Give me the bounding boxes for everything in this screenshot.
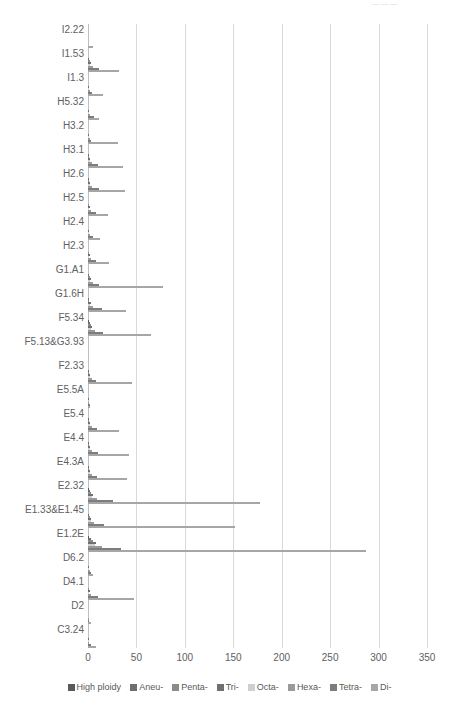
y-category-label: H3.1 — [0, 144, 84, 155]
y-category-label: H5.32 — [0, 96, 84, 107]
bar-group — [88, 360, 427, 384]
bar-group — [88, 504, 427, 528]
legend-label: Hexa- — [297, 682, 321, 692]
bar-group — [88, 384, 427, 408]
x-tick-label: 150 — [225, 652, 242, 664]
y-category-label: I1.3 — [0, 72, 84, 83]
legend-swatch-icon — [248, 684, 255, 691]
y-category-label: D2 — [0, 600, 84, 611]
bar-group — [88, 480, 427, 504]
legend-item[interactable]: Tri- — [217, 682, 239, 692]
y-category-label: E5.5A — [0, 384, 84, 395]
legend-item[interactable]: Octa- — [248, 682, 279, 692]
bar-group — [88, 600, 427, 624]
y-category-label: E1.2E — [0, 528, 84, 539]
legend-label: Tetra- — [339, 682, 362, 692]
legend-swatch-icon — [130, 684, 137, 691]
legend-swatch-icon — [371, 684, 378, 691]
legend-swatch-icon — [217, 684, 224, 691]
bar-group — [88, 264, 427, 288]
x-axis-tick-labels: 050100150200250300350 — [0, 652, 459, 666]
y-category-label: I2.22 — [0, 24, 84, 35]
y-category-label: F5.13&G3.93 — [0, 336, 84, 347]
x-tick-label: 50 — [131, 652, 142, 664]
y-category-label: H2.4 — [0, 216, 84, 227]
bar-group — [88, 336, 427, 360]
bar-group — [88, 288, 427, 312]
bar-group — [88, 576, 427, 600]
bar-group — [88, 168, 427, 192]
clipped-top-artifact: — — — — [372, 0, 398, 5]
legend-swatch-icon — [172, 684, 179, 691]
legend-swatch-icon — [68, 684, 75, 691]
legend-label: Di- — [380, 682, 392, 692]
chart-legend: High ploidyAneu-Penta-Tri-Octa-Hexa-Tetr… — [0, 682, 459, 692]
gridline-350 — [427, 24, 428, 648]
legend-item[interactable]: Hexa- — [288, 682, 321, 692]
horizontal-bar-chart: — — — I2.22I1.53I1.3H5.32H3.2H3.1H2.6H2.… — [0, 0, 459, 710]
bar-group — [88, 456, 427, 480]
y-category-label: G1.A1 — [0, 264, 84, 275]
y-category-label: E4.3A — [0, 456, 84, 467]
bar-group — [88, 216, 427, 240]
x-tick-label: 250 — [322, 652, 339, 664]
y-category-label: E2.32 — [0, 480, 84, 491]
legend-item[interactable]: Aneu- — [130, 682, 163, 692]
legend-label: Octa- — [257, 682, 279, 692]
y-category-label: E4.4 — [0, 432, 84, 443]
x-tick-label: 300 — [370, 652, 387, 664]
y-axis-category-labels: I2.22I1.53I1.3H5.32H3.2H3.1H2.6H2.5H2.4H… — [0, 24, 84, 648]
bar — [88, 646, 96, 648]
bar-group — [88, 48, 427, 72]
y-category-label: F2.33 — [0, 360, 84, 371]
y-category-label: F5.34 — [0, 312, 84, 323]
bar-group — [88, 24, 427, 48]
legend-swatch-icon — [288, 684, 295, 691]
legend-swatch-icon — [330, 684, 337, 691]
bar-group — [88, 192, 427, 216]
bar-group — [88, 312, 427, 336]
y-category-label: H2.5 — [0, 192, 84, 203]
legend-label: High ploidy — [77, 682, 122, 692]
bar-group — [88, 552, 427, 576]
bar-group — [88, 624, 427, 648]
legend-label: Tri- — [226, 682, 239, 692]
bar — [88, 398, 89, 400]
bar-group — [88, 96, 427, 120]
bar-group — [88, 144, 427, 168]
y-category-label: H3.2 — [0, 120, 84, 131]
bar-group — [88, 120, 427, 144]
bar-group — [88, 528, 427, 552]
bar-group — [88, 408, 427, 432]
x-tick-label: 0 — [85, 652, 91, 664]
legend-item[interactable]: Penta- — [172, 682, 208, 692]
x-tick-label: 200 — [273, 652, 290, 664]
legend-item[interactable]: Tetra- — [330, 682, 362, 692]
bar-group — [88, 432, 427, 456]
legend-label: Aneu- — [139, 682, 163, 692]
y-category-label: I1.53 — [0, 48, 84, 59]
y-category-label: H2.6 — [0, 168, 84, 179]
y-category-label: E1.33&E1.45 — [0, 504, 84, 515]
y-category-label: G1.6H — [0, 288, 84, 299]
y-category-label: D6.2 — [0, 552, 84, 563]
legend-label: Penta- — [181, 682, 208, 692]
x-tick-label: 100 — [177, 652, 194, 664]
y-category-label: C3.24 — [0, 624, 84, 635]
plot-area — [88, 24, 427, 648]
y-category-label: E5.4 — [0, 408, 84, 419]
bar-group — [88, 72, 427, 96]
y-category-label: D4.1 — [0, 576, 84, 587]
legend-item[interactable]: Di- — [371, 682, 392, 692]
x-tick-label: 350 — [419, 652, 436, 664]
legend-item[interactable]: High ploidy — [68, 682, 122, 692]
bar-group — [88, 240, 427, 264]
y-category-label: H2.3 — [0, 240, 84, 251]
